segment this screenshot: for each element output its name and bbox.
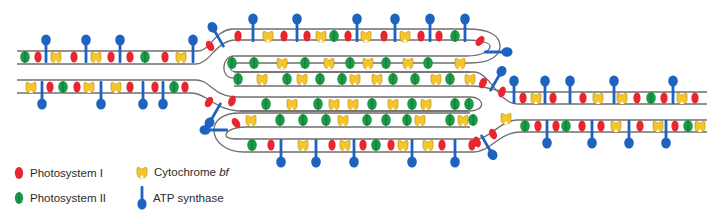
photosystem-i-icon xyxy=(73,81,80,92)
cytochrome-bf-icon xyxy=(501,113,511,124)
photosystem-i-icon xyxy=(46,81,53,92)
photosystem-i-icon xyxy=(579,92,586,103)
photosystem-i-icon xyxy=(126,81,133,92)
photosystem-ii-icon xyxy=(275,114,285,126)
atp-synthase-icon xyxy=(540,76,550,105)
photosystem-i-icon xyxy=(204,39,216,52)
atp-synthase-icon xyxy=(390,14,400,43)
photosystem-ii-icon xyxy=(388,73,398,85)
cytochrome-bf-icon xyxy=(340,140,350,151)
photosystem-ii-icon xyxy=(410,73,420,85)
atp-synthase-icon xyxy=(96,81,106,110)
atp-synthase-icon xyxy=(292,14,302,43)
cytochrome-bf-icon xyxy=(176,52,186,63)
photosystem-i-icon xyxy=(267,139,274,150)
photosystem-i-icon xyxy=(691,92,698,103)
cytochrome-bf-icon xyxy=(257,74,267,85)
atp-synthase-icon xyxy=(115,35,125,64)
atp-synthase-icon xyxy=(484,47,513,57)
atp-synthase-icon xyxy=(188,35,198,64)
photosystem-ii-icon xyxy=(227,57,237,69)
cytochrome-bf-icon xyxy=(455,58,465,69)
atp-synthase-icon xyxy=(349,139,359,168)
cytochrome-bf-icon xyxy=(653,121,663,132)
photosystem-i-icon xyxy=(280,30,287,41)
atp-synthase-icon xyxy=(668,76,678,105)
cytochrome-bf-icon xyxy=(465,74,475,85)
atp-synthase-icon xyxy=(565,76,575,105)
photosystem-i-icon xyxy=(34,51,41,62)
atp-synthase-icon xyxy=(407,139,417,168)
photosystem-ii-icon xyxy=(261,98,271,110)
cytochrome-bf-icon xyxy=(361,31,371,42)
atp-synthase-icon xyxy=(509,76,519,105)
cytochrome-bf-icon xyxy=(421,99,431,110)
photosystem-i-icon xyxy=(387,139,394,150)
photosystem-ii-icon xyxy=(247,139,257,151)
photosystem-i-icon xyxy=(549,92,556,103)
cytochrome-bf-icon xyxy=(593,93,603,104)
grana-middle-outer xyxy=(234,86,707,92)
atp-synthase-icon xyxy=(425,14,435,43)
photosystem-i-icon xyxy=(234,30,241,41)
photosystem-ii-icon xyxy=(362,114,372,126)
photosystem-i-icon xyxy=(181,81,188,92)
photosystem-i-icon xyxy=(497,86,508,99)
photosystem-ii-icon xyxy=(646,92,656,104)
photosystem-ii-icon xyxy=(445,73,455,85)
cytochrome-bf-icon xyxy=(617,93,627,104)
protein-complexes xyxy=(20,14,705,168)
photosystem-ii-icon xyxy=(445,114,455,126)
atp-synthase-icon xyxy=(158,81,168,110)
photosystem-ii-icon xyxy=(315,73,325,85)
cytochrome-bf-icon xyxy=(431,74,441,85)
cytochrome-bf-icon xyxy=(338,115,348,126)
photosystem-ii-icon xyxy=(450,30,460,42)
cytochrome-bf-icon xyxy=(398,140,408,151)
photosystem-i-icon xyxy=(328,139,335,150)
atp-synthase-icon xyxy=(41,35,51,64)
cytochrome-bf-icon xyxy=(403,58,413,69)
cytochrome-bf-icon xyxy=(246,115,256,126)
photosystem-ii-icon xyxy=(468,114,478,126)
photosystem-i-icon xyxy=(660,92,667,103)
photosystem-ii-icon xyxy=(381,114,391,126)
photosystem-ii-icon xyxy=(313,98,323,110)
atp-synthase-icon xyxy=(542,120,552,149)
cytochrome-bf-icon xyxy=(458,115,468,126)
atp-synthase-icon xyxy=(587,120,597,149)
photosystem-i-icon xyxy=(435,30,442,41)
cytochrome-bf-icon xyxy=(316,31,326,42)
photosystem-ii-icon xyxy=(169,81,179,93)
photosystem-ii-icon xyxy=(282,73,292,85)
photosystem-ii-icon xyxy=(371,139,381,151)
photosystem-ii-icon xyxy=(337,73,347,85)
cytochrome-bf-icon xyxy=(400,31,410,42)
photosystem-ii-icon xyxy=(683,120,693,132)
photosystem-i-icon xyxy=(438,139,445,150)
cytochrome-bf-icon xyxy=(84,82,94,93)
cytochrome-bf-icon xyxy=(51,52,61,63)
photosystem-i-icon xyxy=(359,139,366,150)
cytochrome-bf-icon xyxy=(423,140,433,151)
thylakoid-diagram xyxy=(0,0,721,216)
photosystem-ii-icon xyxy=(520,120,530,132)
cytochrome-bf-icon xyxy=(677,93,687,104)
photosystem-ii-icon xyxy=(367,98,377,110)
atp-synthase-icon xyxy=(81,35,91,64)
photosystem-ii-icon xyxy=(561,120,571,132)
cytochrome-bf-icon xyxy=(388,99,398,110)
atp-synthase-icon xyxy=(624,120,634,149)
atp-synthase-icon xyxy=(37,81,47,110)
photosystem-i-icon xyxy=(633,92,640,103)
cytochrome-bf-icon xyxy=(111,82,121,93)
atp-synthase-icon xyxy=(352,14,362,43)
photosystem-i-icon xyxy=(671,120,678,131)
photosystem-i-icon xyxy=(597,120,604,131)
photosystem-ii-icon xyxy=(20,51,30,63)
photosystem-i-icon xyxy=(534,120,541,131)
atp-synthase-icon xyxy=(311,139,321,168)
photosystem-i-icon xyxy=(552,120,559,131)
photosystem-ii-icon xyxy=(321,114,331,126)
photosystem-i-icon xyxy=(380,30,387,41)
